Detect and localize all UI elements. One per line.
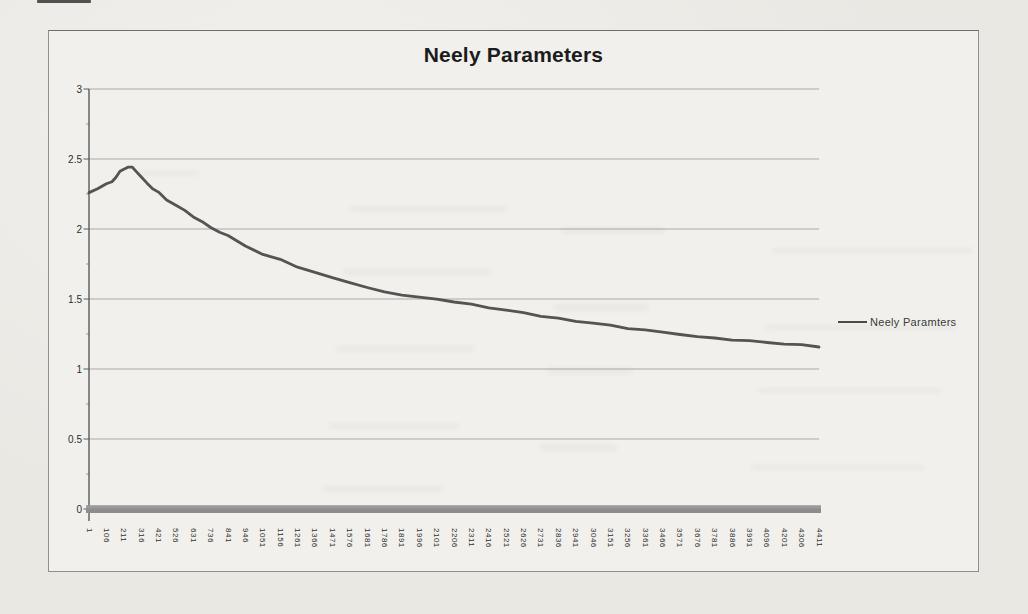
x-tick-label: 2311 (467, 528, 476, 547)
x-tick-label: 3466 (658, 528, 667, 548)
x-tick-label: 526 (171, 528, 180, 543)
chart-area: Neely Parameters 00.511.522.531106211316… (48, 30, 979, 572)
x-tick-label: 3991 (745, 528, 754, 548)
x-tick-label: 2731 (536, 528, 545, 548)
scan-artifact (37, 0, 91, 3)
x-tick-label: 4411 (815, 528, 824, 547)
x-tick-label: 1156 (276, 528, 285, 547)
x-tick-label: 3886 (728, 528, 737, 548)
x-tick-label: 4201 (780, 528, 789, 548)
x-tick-label: 1471 (328, 528, 337, 548)
x-tick-label: 3151 (606, 528, 615, 548)
scanned-page: Neely Parameters 00.511.522.531106211316… (0, 0, 1028, 614)
x-tick-label: 1891 (397, 528, 406, 548)
x-tick-label: 2626 (519, 528, 528, 548)
x-tick-label: 841 (224, 528, 233, 543)
series-line (89, 167, 819, 347)
x-tick-label: 1 (85, 528, 94, 533)
x-tick-label: 2836 (554, 528, 563, 548)
x-tick-label: 1996 (415, 528, 424, 548)
x-tick-label: 1366 (310, 528, 319, 548)
x-tick-label: 736 (206, 528, 215, 543)
legend: Neely Paramters (838, 314, 956, 330)
x-tick-label: 4096 (762, 528, 771, 548)
legend-series-label: Neely Paramters (870, 316, 956, 328)
y-tick-label: 2 (76, 224, 82, 235)
x-tick-label: 1681 (363, 528, 372, 548)
x-tick-label: 946 (241, 528, 250, 543)
y-tick-label: 2.5 (68, 154, 82, 165)
x-tick-label: 3781 (710, 528, 719, 548)
x-tick-label: 1051 (258, 528, 267, 548)
x-tick-label: 3046 (589, 528, 598, 548)
x-tick-label: 3361 (641, 528, 650, 548)
y-tick-label: 1.5 (68, 294, 82, 305)
y-tick-label: 0.5 (68, 434, 82, 445)
x-tick-label: 421 (154, 528, 163, 543)
x-tick-label: 2416 (484, 528, 493, 548)
x-tick-label: 2101 (432, 528, 441, 548)
y-tick-label: 1 (76, 364, 82, 375)
x-tick-label: 1261 (293, 528, 302, 548)
x-tick-label: 631 (189, 528, 198, 543)
x-tick-label: 316 (137, 528, 146, 543)
x-tick-label: 2206 (450, 528, 459, 548)
x-tick-label: 1786 (380, 528, 389, 548)
y-tick-label: 0 (76, 504, 82, 515)
x-tick-label: 2941 (571, 528, 580, 548)
x-tick-label: 3256 (623, 528, 632, 548)
plot-svg: 00.511.522.53110621131642152663173684194… (49, 31, 980, 573)
x-tick-label: 211 (119, 528, 128, 542)
x-tick-label: 1576 (345, 528, 354, 548)
y-tick-label: 3 (76, 84, 82, 95)
legend-line-marker (838, 321, 867, 323)
x-axis-bar-highlight (86, 506, 821, 509)
x-tick-label: 106 (102, 528, 111, 543)
x-tick-label: 4306 (797, 528, 806, 548)
x-tick-label: 3676 (693, 528, 702, 548)
x-tick-label: 2521 (502, 528, 511, 548)
x-tick-label: 3571 (675, 528, 684, 548)
